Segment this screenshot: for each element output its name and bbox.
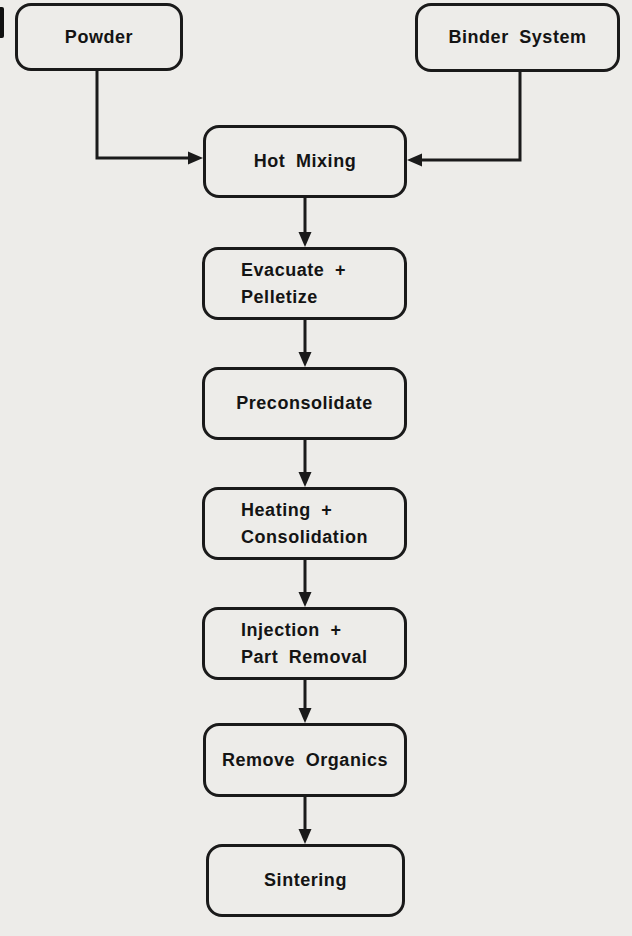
arrowhead-down-injection-part-removal [299,592,312,607]
node-sintering: Sintering [206,844,405,917]
node-heating-consolidation: Heating + Consolidation [202,487,407,560]
arrowhead-down-evacuate-pelletize [299,232,312,247]
node-hot-mixing: Hot Mixing [203,125,407,198]
arrowhead-down-sintering [299,829,312,844]
node-hot-mixing-label: Hot Mixing [254,148,356,175]
node-preconsolidate-label: Preconsolidate [236,390,373,417]
flowchart-canvas: Powder Binder System Hot Mixing Evacuate… [0,0,632,936]
scan-artifact [0,7,4,38]
node-evacuate-pelletize-label: Evacuate + Pelletize [241,257,346,311]
node-evacuate-pelletize: Evacuate + Pelletize [202,247,407,320]
node-powder: Powder [15,3,183,71]
node-binder-system: Binder System [415,3,620,72]
node-powder-label: Powder [65,24,133,51]
node-sintering-label: Sintering [264,867,347,894]
edge-powder-to-hot-mixing [97,71,190,158]
node-preconsolidate: Preconsolidate [202,367,407,440]
node-binder-system-label: Binder System [448,24,586,51]
node-remove-organics: Remove Organics [203,723,407,797]
arrowhead-right-powder [188,152,203,165]
edge-binder-system-to-hot-mixing [420,72,520,160]
node-injection-part-removal-label: Injection + Part Removal [241,617,368,671]
arrowhead-down-remove-organics [299,708,312,723]
arrowhead-down-preconsolidate [299,352,312,367]
arrowhead-down-heating-consolidation [299,472,312,487]
node-injection-part-removal: Injection + Part Removal [202,607,407,680]
node-remove-organics-label: Remove Organics [222,747,388,774]
arrowhead-left-binder-system [407,154,422,167]
node-heating-consolidation-label: Heating + Consolidation [241,497,368,551]
